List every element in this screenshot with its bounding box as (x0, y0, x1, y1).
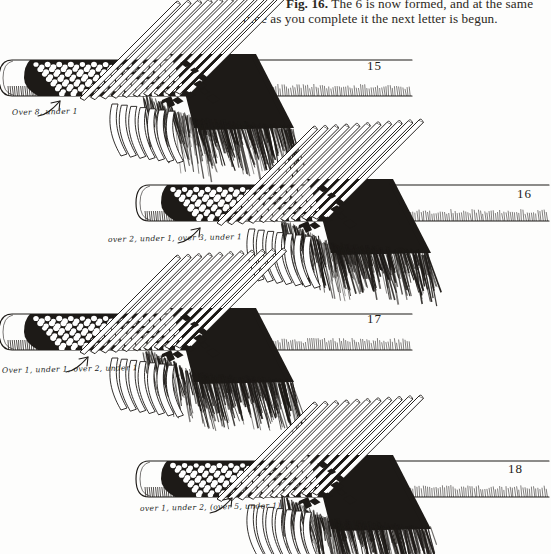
figure-number-17: 17 (367, 311, 382, 327)
handwritten-annotation-15: Over 8, under 1 (12, 107, 78, 117)
braid-diagram-18 (131, 409, 551, 554)
figure-number-18: 18 (508, 461, 523, 477)
figure-number-15: 15 (367, 58, 382, 74)
scanned-page: Fig. 16. The 6 is now formed, and at the… (0, 0, 551, 554)
figure-number-16: 16 (517, 186, 532, 202)
